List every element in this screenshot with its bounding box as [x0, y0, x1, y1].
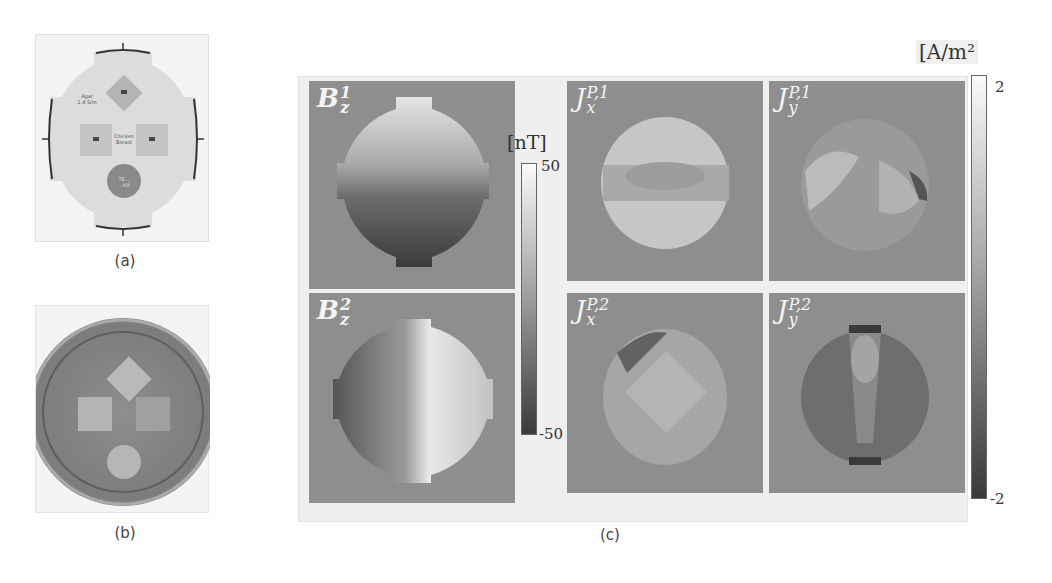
caption-c: (c) — [580, 526, 640, 544]
map-jx1: JP,1x — [567, 81, 763, 281]
colorbar-b — [521, 163, 537, 435]
map-bz2: B2z — [309, 293, 515, 503]
map-bz1: B1z — [309, 81, 515, 289]
bottom-inclusion-label: TE... ...HA — [112, 176, 136, 188]
colorbar-j-max: 2 — [995, 78, 1005, 96]
colorbar-b-unit: [nT] — [507, 131, 547, 153]
label-jy1: JP,1y — [777, 85, 811, 115]
colorbar-j-unit: [A/m² — [916, 40, 978, 64]
panel-a-phantom-schematic: Agar 1.4 S/m Chicken Breast TE... ...HA — [35, 34, 209, 242]
colorbar-b-max: 50 — [541, 157, 560, 175]
caption-b: (b) — [95, 524, 155, 542]
label-bz2: B2z — [317, 297, 351, 327]
colorbar-j — [971, 75, 987, 499]
agar-label: Agar 1.4 S/m — [74, 93, 100, 105]
map-jy2: JP,2y — [769, 293, 965, 493]
label-jy2: JP,2y — [777, 297, 811, 327]
colorbar-b-min: -50 — [539, 425, 563, 443]
panel-c-maps: B1z B2z [nT] 50 -50 — [298, 76, 968, 522]
map-jy1: JP,1y — [769, 81, 965, 281]
map-jx2: JP,2x — [567, 293, 763, 493]
label-jx1: JP,1x — [575, 85, 609, 115]
panel-b-mr-image — [35, 305, 209, 513]
chicken-label: Chicken Breast — [110, 133, 138, 145]
label-jx2: JP,2x — [575, 297, 609, 327]
mr-magnitude-image-icon — [36, 306, 210, 514]
label-bz1: B1z — [317, 85, 351, 115]
caption-a: (a) — [95, 252, 155, 270]
colorbar-j-min: -2 — [990, 490, 1005, 508]
